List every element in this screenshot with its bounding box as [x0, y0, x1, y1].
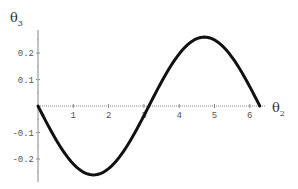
y-tick-label: 0.2 — [18, 49, 34, 59]
x-tick-label: 6 — [247, 111, 252, 121]
x-tick-label: 5 — [212, 111, 217, 121]
tick-labels: 123456-0.2-0.10.10.2 — [12, 49, 252, 165]
y-tick-label: -0.2 — [12, 155, 34, 165]
y-tick-label: 0.1 — [18, 76, 34, 86]
y-tick-label: -0.1 — [12, 129, 34, 139]
x-tick-label: 2 — [106, 111, 111, 121]
x-tick-label: 4 — [176, 111, 181, 121]
y-axis-label: θ3 — [10, 10, 23, 28]
x-tick-label: 1 — [71, 111, 76, 121]
x-axis-label: θ2 — [272, 100, 285, 118]
chart: 123456-0.2-0.10.10.2 θ3 θ2 — [0, 0, 298, 189]
